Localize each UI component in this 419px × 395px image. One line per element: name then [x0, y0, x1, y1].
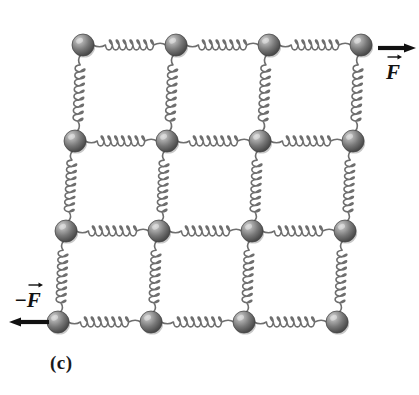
panel-label: (c) [50, 352, 73, 374]
force-label-top-text: F [386, 60, 400, 84]
atom-node [334, 220, 357, 244]
atom-sphere [249, 130, 271, 152]
horizontal-spring [68, 317, 141, 327]
spring-lattice-diagram [0, 0, 419, 395]
atom-sphere [64, 130, 86, 152]
horizontal-spring [85, 136, 157, 146]
vertical-spring [64, 151, 76, 221]
horizontal-spring [186, 40, 259, 50]
horizontal-spring [254, 317, 327, 327]
atom-node [241, 220, 264, 244]
atom-sphere [334, 220, 356, 242]
force-vector-top: F [386, 58, 400, 85]
springs-layer [56, 40, 363, 327]
physics-figure-panel-c: F − F (c) [0, 0, 419, 395]
vertical-spring [56, 241, 68, 312]
atom-node [72, 34, 95, 58]
vertical-spring [157, 151, 169, 221]
force-arrow-top-right [378, 44, 416, 53]
atom-sphere [72, 34, 94, 56]
force-label-top: F [386, 58, 400, 85]
horizontal-spring [169, 226, 242, 236]
atom-node [326, 311, 349, 335]
vertical-spring [250, 151, 262, 221]
vertical-spring [242, 241, 254, 312]
vertical-spring [73, 55, 85, 131]
atom-sphere [342, 130, 364, 152]
atoms-layer [47, 34, 373, 335]
atom-sphere [156, 130, 178, 152]
atom-sphere [47, 311, 69, 333]
atom-node [55, 220, 78, 244]
arrow-head [9, 318, 21, 327]
atom-sphere [258, 34, 280, 56]
vertical-spring [149, 241, 161, 312]
force-vector-bottom: F [27, 286, 41, 313]
atom-sphere [233, 311, 255, 333]
atom-sphere [140, 311, 162, 333]
horizontal-spring [93, 40, 166, 50]
force-label-bottom: − F [14, 286, 41, 313]
force-label-bottom-text: F [27, 288, 41, 312]
atom-sphere [165, 34, 187, 56]
atom-node [64, 130, 87, 154]
horizontal-spring [76, 226, 149, 236]
atom-sphere [241, 220, 263, 242]
vertical-spring [165, 55, 177, 131]
arrow-head [404, 44, 416, 53]
vertical-spring [258, 55, 270, 131]
atom-node [165, 34, 188, 58]
vertical-spring [351, 55, 363, 131]
atom-sphere [55, 220, 77, 242]
vertical-spring [343, 151, 355, 221]
horizontal-spring [177, 136, 250, 146]
atom-sphere [326, 311, 348, 333]
horizontal-spring [270, 136, 343, 146]
force-arrow-bottom-left [9, 318, 49, 327]
atom-node [47, 311, 70, 335]
atom-sphere [148, 220, 170, 242]
horizontal-spring [279, 40, 351, 50]
atom-node [233, 311, 256, 335]
atom-node [342, 130, 365, 154]
horizontal-spring [161, 317, 234, 327]
force-label-bottom-sign: − [14, 288, 27, 312]
horizontal-spring [262, 226, 335, 236]
atom-node [350, 34, 373, 58]
atom-sphere [350, 34, 372, 56]
vertical-spring [335, 241, 347, 312]
atom-node [258, 34, 281, 58]
atom-node [140, 311, 163, 335]
atom-node [148, 220, 171, 244]
atom-node [249, 130, 272, 154]
atom-node [156, 130, 179, 154]
